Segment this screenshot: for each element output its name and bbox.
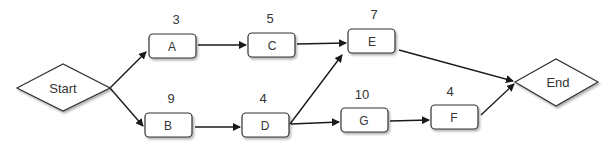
duration-g: 10 [355,87,369,102]
edge-start-a [110,52,146,88]
edge-f-end [481,84,514,115]
network-diagram: Start End 3 A 5 C 7 E 9 B 4 D 10 G [0,0,614,147]
duration-c: 5 [266,11,273,26]
activity-f[interactable]: 4 F [431,84,478,129]
start-node[interactable]: Start [17,64,110,111]
label-d: D [261,119,270,133]
edge-d-g [291,122,339,124]
start-label: Start [49,81,77,96]
edge-e-end [399,50,513,81]
duration-b: 9 [167,91,174,106]
activity-a[interactable]: 3 A [149,12,196,58]
activity-e[interactable]: 7 E [348,7,395,53]
edge-g-f [390,120,429,121]
label-f: F [450,111,457,125]
edge-start-b [110,88,143,126]
edge-c-e [297,43,346,44]
end-node[interactable]: End [515,59,598,106]
duration-d: 4 [259,91,266,106]
label-e: E [368,35,376,49]
edge-d-e [290,55,342,124]
activity-g[interactable]: 10 G [341,87,388,132]
label-g: G [359,114,368,128]
activity-b[interactable]: 9 B [145,91,192,137]
duration-e: 7 [370,7,377,22]
activity-d[interactable]: 4 D [242,91,289,137]
label-c: C [268,39,277,53]
activity-c[interactable]: 5 C [248,11,295,57]
end-label: End [546,75,569,90]
label-b: B [164,119,172,133]
label-a: A [168,40,176,54]
duration-a: 3 [172,12,179,27]
duration-f: 4 [446,84,453,99]
